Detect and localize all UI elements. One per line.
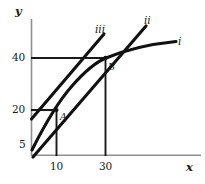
chart-figure: y x 40 20 5 10 30 i ii iii A B bbox=[0, 0, 205, 184]
y-tick-40: 40 bbox=[12, 52, 25, 63]
point-marker-a bbox=[55, 108, 59, 112]
point-label-b: B bbox=[108, 62, 115, 72]
y-axis-label: y bbox=[15, 6, 22, 18]
x-tick-10: 10 bbox=[50, 161, 63, 172]
curve-ii bbox=[33, 26, 146, 157]
x-axis-label: x bbox=[186, 162, 193, 174]
curve-iii bbox=[32, 34, 105, 119]
x-tick-30: 30 bbox=[99, 161, 112, 172]
curve-label-i: i bbox=[178, 36, 181, 47]
point-marker-b bbox=[103, 56, 107, 60]
curve-label-ii: ii bbox=[144, 15, 151, 26]
y-tick-20: 20 bbox=[12, 104, 25, 115]
curve-label-iii: iii bbox=[95, 24, 105, 35]
y-tick-5: 5 bbox=[19, 139, 25, 150]
point-label-a: A bbox=[60, 112, 67, 122]
